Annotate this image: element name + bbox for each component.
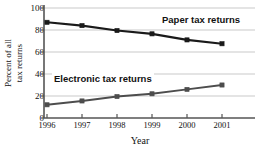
data-point-marker bbox=[115, 94, 119, 98]
data-point-marker bbox=[45, 103, 49, 107]
line-chart: Percent of all tax returns 020406080100 … bbox=[0, 0, 260, 152]
data-point-marker bbox=[150, 92, 154, 96]
x-axis-tick-label: 2001 bbox=[214, 121, 231, 130]
series-line bbox=[47, 85, 222, 105]
series-label-paper: Paper tax returns bbox=[160, 14, 242, 26]
data-point-marker bbox=[220, 83, 224, 87]
x-axis-tick-label: 1996 bbox=[39, 121, 56, 130]
data-point-marker bbox=[185, 38, 189, 42]
series-electronic bbox=[45, 83, 224, 107]
x-axis-tick-label: 1997 bbox=[74, 121, 91, 130]
data-point-marker bbox=[80, 24, 84, 28]
data-point-marker bbox=[185, 87, 189, 91]
x-axis-tick-label: 1999 bbox=[144, 121, 161, 130]
data-point-marker bbox=[150, 32, 154, 36]
data-point-marker bbox=[115, 28, 119, 32]
data-point-marker bbox=[80, 99, 84, 103]
x-axis-tick-label: 1998 bbox=[109, 121, 126, 130]
x-axis-tick-label: 2000 bbox=[179, 121, 196, 130]
data-point-marker bbox=[220, 42, 224, 46]
x-axis-title: Year bbox=[0, 135, 260, 146]
data-point-marker bbox=[45, 20, 49, 24]
series-label-electronic: Electronic tax returns bbox=[52, 73, 154, 85]
x-axis-title-text: Year bbox=[131, 135, 149, 146]
